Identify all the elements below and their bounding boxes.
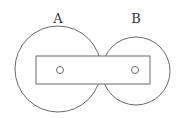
label-a: A	[52, 11, 63, 26]
connecting-bar	[36, 56, 150, 84]
label-b: B	[131, 11, 141, 26]
two-pulley-diagram: A B	[0, 0, 180, 118]
